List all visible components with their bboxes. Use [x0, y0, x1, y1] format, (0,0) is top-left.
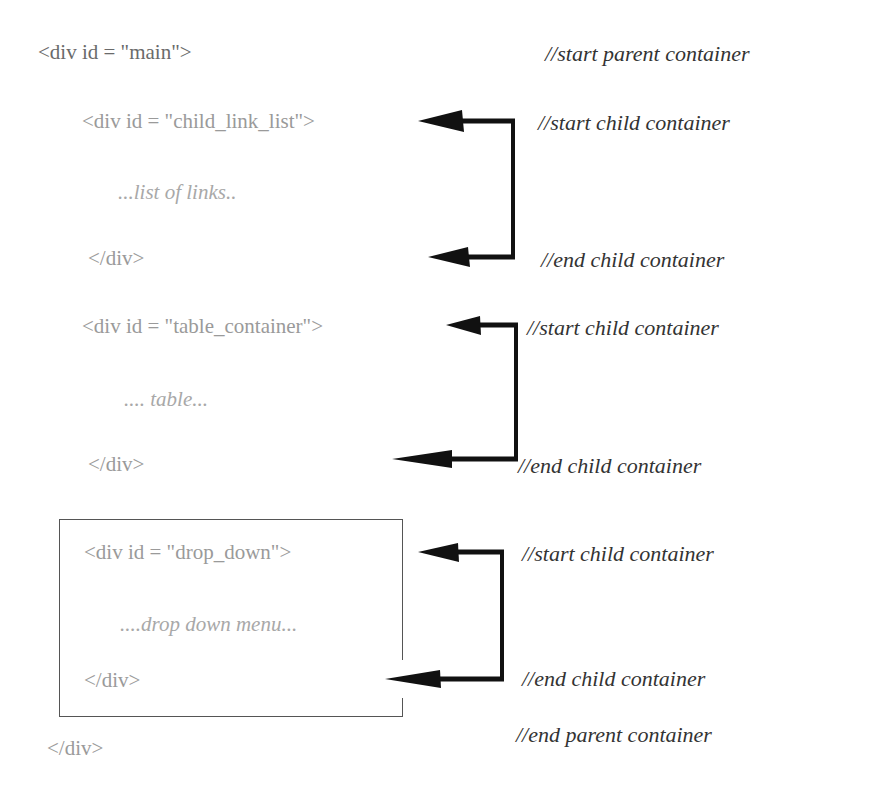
bracket-arrow-child-link-list [418, 110, 515, 267]
bracket-arrows [0, 0, 886, 795]
arrow-left-icon [392, 450, 452, 468]
arrow-left-icon [418, 110, 464, 132]
bracket-arrow-drop-down [385, 543, 504, 688]
bracket-arrow-table-container [392, 316, 518, 468]
arrow-left-icon [446, 316, 481, 335]
arrow-left-icon [418, 543, 459, 562]
arrow-left-icon [385, 670, 441, 688]
arrow-left-icon [428, 247, 470, 267]
